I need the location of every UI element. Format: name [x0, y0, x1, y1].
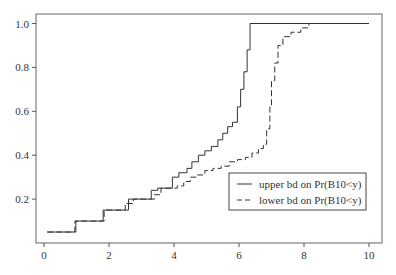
chart-svg: 0.20.40.60.81.0 0246810 upper bd on Pr(B… [0, 0, 396, 275]
y-tick-label: 0.4 [15, 149, 29, 161]
x-tick-label: 2 [106, 249, 112, 261]
x-tick-label: 4 [171, 249, 177, 261]
legend: upper bd on Pr(B10<y) lower bd on Pr(B10… [229, 173, 366, 210]
y-tick-label: 1.0 [15, 18, 29, 30]
legend-label-lower: lower bd on Pr(B10<y) [259, 194, 362, 207]
y-axis: 0.20.40.60.81.0 [15, 18, 36, 206]
y-tick-label: 0.6 [15, 105, 29, 117]
x-axis: 0246810 [41, 243, 375, 261]
x-tick-label: 6 [236, 249, 242, 261]
x-tick-label: 10 [364, 249, 376, 261]
y-tick-label: 0.2 [15, 193, 29, 205]
y-tick-label: 0.8 [15, 61, 29, 73]
chart-container: 0.20.40.60.81.0 0246810 upper bd on Pr(B… [0, 0, 396, 275]
x-tick-label: 0 [41, 249, 47, 261]
x-tick-label: 8 [301, 249, 307, 261]
legend-label-upper: upper bd on Pr(B10<y) [259, 178, 362, 191]
